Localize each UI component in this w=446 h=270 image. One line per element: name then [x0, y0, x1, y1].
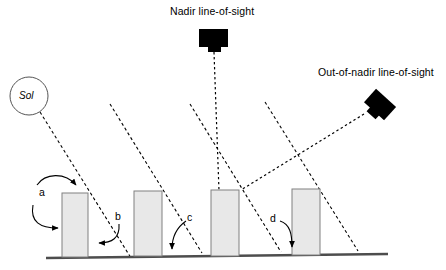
- feature-label-c: c: [187, 211, 192, 223]
- diagram-canvas: [0, 0, 446, 270]
- camera-nadir-icon: [199, 29, 228, 52]
- annotation-arrow-b: [99, 224, 119, 243]
- sun-label: Sol: [19, 90, 33, 101]
- feature-label-b: b: [115, 210, 121, 222]
- building-4: [292, 189, 320, 255]
- camera-out-of-nadir-icon: [361, 89, 396, 124]
- feature-label-a: a: [39, 186, 45, 198]
- annotation-arrow-a-top: [37, 176, 76, 185]
- figure-container: Nadir line-of-sight Out-of-nadir line-of…: [0, 0, 446, 270]
- building-group: [62, 189, 320, 257]
- out-of-nadir-line-of-sight-label: Out-of-nadir line-of-sight: [318, 66, 434, 78]
- nadir-sight-line: [214, 52, 219, 191]
- building-2: [134, 191, 162, 256]
- feature-label-d: d: [270, 212, 276, 224]
- nadir-line-of-sight-label: Nadir line-of-sight: [170, 5, 254, 17]
- annotation-arrow-c: [172, 221, 186, 249]
- building-3: [211, 190, 239, 256]
- building-1: [62, 193, 88, 257]
- annotation-arrow-a-bottom: [32, 205, 58, 228]
- annotation-arrow-d: [280, 221, 292, 247]
- out-of-nadir-sight-line: [241, 114, 364, 190]
